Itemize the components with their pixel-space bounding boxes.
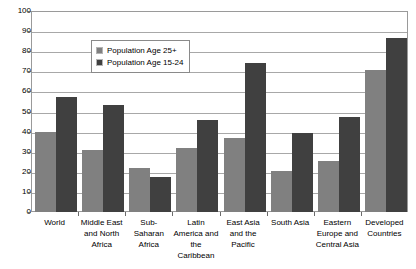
bar[interactable] xyxy=(245,63,266,212)
bar[interactable] xyxy=(82,150,103,212)
x-axis-category-label: World xyxy=(31,217,78,228)
bar-group xyxy=(361,11,408,212)
x-axis-category-label: LatinAmerica andtheCaribbean xyxy=(172,217,219,261)
category-label-line: Latin xyxy=(172,217,219,228)
bar[interactable] xyxy=(292,133,313,212)
legend-item[interactable]: Population Age 25+ xyxy=(96,45,184,56)
y-axis-tick-mark xyxy=(27,212,31,213)
bar[interactable] xyxy=(339,117,360,212)
category-label-line: Africa xyxy=(78,239,125,250)
legend-swatch-icon xyxy=(96,59,103,66)
legend-swatch-icon xyxy=(96,47,103,54)
bar[interactable] xyxy=(56,97,77,212)
category-label-line: Sub- xyxy=(125,217,172,228)
category-label-line: Caribbean xyxy=(172,250,219,261)
category-label-line: Middle East xyxy=(78,217,125,228)
bar-chart: Attainment Rate 1009080706050403020100 W… xyxy=(0,0,416,269)
category-label-line: Eastern xyxy=(314,217,361,228)
category-label-line: Pacific xyxy=(220,239,267,250)
x-axis-tick-mark xyxy=(314,212,315,216)
category-label-line: Europe and xyxy=(314,228,361,239)
category-label-line: and the xyxy=(220,228,267,239)
bar[interactable] xyxy=(150,177,171,212)
x-axis-category-labels: WorldMiddle Eastand NorthAfricaSub-Sahar… xyxy=(31,217,408,269)
bar-group xyxy=(314,11,361,212)
x-axis-tick-mark xyxy=(267,212,268,216)
bar[interactable] xyxy=(271,171,292,212)
x-axis-category-label: DevelopedCountries xyxy=(361,217,408,239)
chart-legend: Population Age 25+ Population Age 15-24 xyxy=(91,40,190,73)
x-axis-category-label: Middle Eastand NorthAfrica xyxy=(78,217,125,250)
category-label-line: World xyxy=(31,217,78,228)
category-label-line: America and xyxy=(172,228,219,239)
bar[interactable] xyxy=(318,161,339,212)
category-label-line: and North xyxy=(78,228,125,239)
legend-item-label: Population Age 15-24 xyxy=(107,58,184,67)
category-label-line: East Asia xyxy=(220,217,267,228)
bar-group xyxy=(31,11,78,212)
x-axis-category-label: South Asia xyxy=(267,217,314,228)
category-label-line: the xyxy=(172,239,219,250)
category-label-line: Saharan xyxy=(125,228,172,239)
bar[interactable] xyxy=(103,105,124,212)
x-axis-category-label: Sub-SaharanAfrica xyxy=(125,217,172,250)
x-axis-tick-mark xyxy=(172,212,173,216)
category-label-line: South Asia xyxy=(267,217,314,228)
legend-item[interactable]: Population Age 15-24 xyxy=(96,57,184,68)
bar[interactable] xyxy=(129,168,150,212)
bar[interactable] xyxy=(197,120,218,212)
legend-item-label: Population Age 25+ xyxy=(107,46,177,55)
cropped-caption-strip xyxy=(36,0,386,3)
y-axis-tick-labels: 1009080706050403020100 xyxy=(0,0,31,269)
x-axis-category-label: EasternEurope andCentral Asia xyxy=(314,217,361,250)
bar[interactable] xyxy=(224,138,245,212)
category-label-line: Africa xyxy=(125,239,172,250)
category-label-line: Central Asia xyxy=(314,239,361,250)
bar-series-layer xyxy=(31,11,408,212)
x-axis-tick-mark xyxy=(125,212,126,216)
bar-group xyxy=(267,11,314,212)
bar[interactable] xyxy=(35,132,56,212)
bar[interactable] xyxy=(176,148,197,212)
x-axis-category-label: East Asiaand thePacific xyxy=(220,217,267,250)
category-label-line: Countries xyxy=(361,228,408,239)
category-label-line: Developed xyxy=(361,217,408,228)
bar[interactable] xyxy=(365,70,386,212)
x-axis-tick-mark xyxy=(78,212,79,216)
bar-group xyxy=(220,11,267,212)
x-axis-tick-mark xyxy=(361,212,362,216)
x-axis-tick-mark xyxy=(220,212,221,216)
bar[interactable] xyxy=(386,38,407,212)
